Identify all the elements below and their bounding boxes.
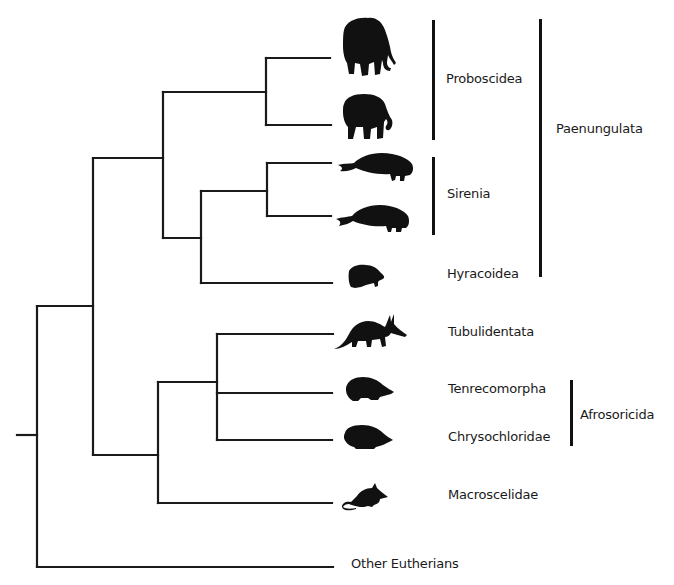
tenrec-icon [346, 377, 394, 401]
phylogenetic-tree [0, 0, 674, 585]
macroscelidae-label: Macroscelidae [448, 488, 538, 501]
elephant-icon [343, 94, 392, 139]
proboscidea-bar [432, 20, 435, 140]
afrosoricida-bar [570, 380, 573, 446]
dugong-icon [338, 153, 413, 181]
other-eutherians-label: Other Eutherians [351, 557, 459, 570]
tubulidentata-label: Tubulidentata [448, 325, 534, 338]
proboscidea-label: Proboscidea [446, 72, 522, 85]
paenungulata-label: Paenungulata [556, 122, 643, 135]
chrysochloridae-label: Chrysochloridae [448, 430, 550, 443]
hyrax-icon [349, 265, 385, 288]
aardvark-icon [334, 314, 407, 349]
sirenia-bar [432, 157, 435, 235]
tree-branches [17, 58, 333, 567]
golden-mole-icon [344, 425, 393, 449]
mammoth-icon [343, 18, 396, 76]
tenrecomorpha-label: Tenrecomorpha [448, 382, 546, 395]
hyracoidea-label: Hyracoidea [447, 267, 519, 280]
manatee-icon [336, 205, 409, 232]
paenungulata-bar [539, 19, 542, 277]
afrosoricida-label: Afrosoricida [580, 408, 654, 421]
sirenia-label: Sirenia [447, 187, 490, 200]
elephant-shrew-icon [342, 483, 388, 510]
